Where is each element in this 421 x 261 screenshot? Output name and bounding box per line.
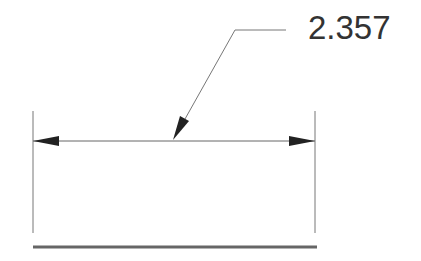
left-arrowhead-icon xyxy=(33,136,59,146)
right-arrowhead-icon xyxy=(289,136,315,146)
leader-line xyxy=(185,30,286,119)
dimension-value: 2.357 xyxy=(308,11,391,44)
leader-arrowhead-icon xyxy=(173,116,189,140)
